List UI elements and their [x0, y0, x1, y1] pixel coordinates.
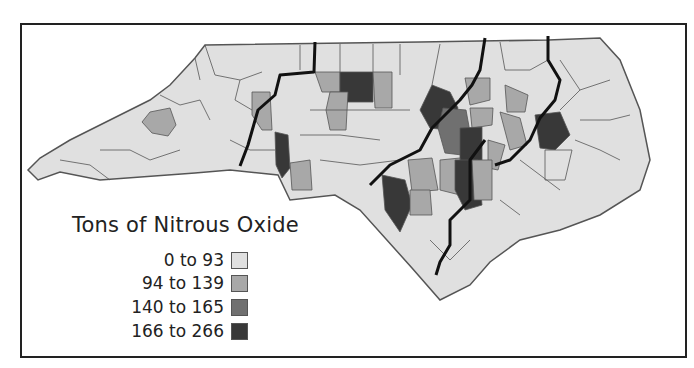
- county: [290, 160, 312, 190]
- county: [410, 190, 432, 215]
- legend-item: 140 to 165: [0, 297, 255, 317]
- legend-label: 94 to 139: [142, 273, 224, 293]
- legend-swatch: [231, 252, 248, 269]
- legend-label: 166 to 266: [131, 321, 224, 341]
- county: [470, 108, 493, 128]
- county: [373, 72, 392, 108]
- legend-item: 0 to 93: [0, 250, 255, 270]
- legend-item: 94 to 139: [0, 273, 255, 293]
- county: [472, 160, 492, 200]
- county: [326, 92, 348, 130]
- legend-label: 140 to 165: [131, 297, 224, 317]
- legend-swatch: [231, 323, 248, 340]
- legend-swatch: [231, 275, 248, 292]
- legend-swatch: [231, 299, 248, 316]
- legend-title: Tons of Nitrous Oxide: [72, 213, 299, 237]
- legend-label: 0 to 93: [164, 250, 224, 270]
- legend-item: 166 to 266: [0, 321, 255, 341]
